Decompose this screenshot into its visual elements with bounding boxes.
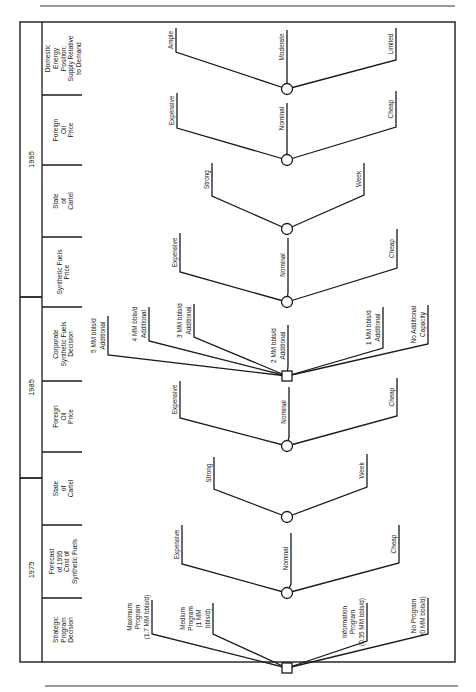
branch-line — [287, 238, 288, 302]
decision-tree-figure: 199519851975DomesticEnergyPosition:Suppl… — [0, 0, 476, 692]
stage-header-label: State — [52, 193, 59, 209]
diagram-svg: 199519851975DomesticEnergyPosition:Suppl… — [0, 0, 476, 692]
year-label: 1975 — [27, 562, 36, 579]
branch-line — [287, 91, 396, 160]
branch-line — [287, 454, 367, 517]
branch-label: Nominal — [279, 253, 286, 276]
branch-label: Additional — [185, 306, 192, 334]
branch-label: Expensive — [171, 384, 179, 414]
stage-header-label: to Demand — [75, 42, 82, 75]
decision-node-square — [282, 371, 292, 381]
branch-label: Week — [358, 462, 365, 479]
branch-label: Additional — [140, 310, 147, 338]
branch-label: Maximum — [126, 603, 133, 631]
branch-label: 5 MM bbls/d — [90, 318, 97, 353]
branch-line — [287, 378, 397, 446]
branch-label: No Program — [410, 599, 418, 633]
year-label: 1985 — [27, 379, 36, 396]
branch-label: Cheap — [390, 534, 398, 553]
branch-label: Nominal — [282, 547, 289, 570]
branch-label: Information — [341, 606, 348, 638]
branch-label: Additional — [374, 313, 381, 341]
branch-line — [287, 163, 364, 229]
stage-header-label: Cost of — [63, 551, 70, 572]
stage-header-label: Decision — [67, 617, 74, 643]
chance-node-circle — [282, 441, 293, 452]
branch-label: bbls/d) — [204, 609, 212, 628]
branch-label: Additional — [279, 331, 286, 359]
chance-node-circle — [282, 297, 293, 308]
stage-header-label: Price — [63, 264, 70, 279]
stage-header-label: Cartel — [67, 479, 74, 497]
branch-line — [149, 307, 287, 376]
branch-label: Capacity — [419, 311, 427, 337]
stage-header-label: State — [52, 480, 59, 496]
stage-header-label: Position: — [60, 46, 67, 71]
stage-header-label: Cartel — [67, 192, 74, 210]
branch-label: Cheap — [388, 239, 396, 258]
chance-node-circle — [282, 588, 293, 599]
chance-node-circle — [282, 155, 293, 166]
branch-label: Program — [134, 605, 142, 630]
stage-header-label: Price — [67, 122, 74, 137]
branch-label: Nominal — [280, 400, 287, 423]
decision-node-square — [282, 663, 292, 673]
chance-node-circle — [282, 84, 293, 95]
branch-label: Cheap — [387, 99, 395, 118]
stage-header-label: Decision — [67, 331, 74, 357]
stage-header-label: Oil — [60, 412, 67, 421]
branch-label: Cheap — [388, 387, 396, 406]
stage-header-label: Synthetic Fuels — [71, 538, 79, 584]
branch-label: Expensive — [171, 237, 179, 267]
stage-header-label: Oil — [60, 125, 67, 134]
branch-label: (0.35 MM bbls/d) — [358, 598, 366, 646]
branch-label: Ample — [167, 31, 175, 50]
stage-header-label: Price — [67, 409, 74, 424]
branch-label: (0 MM bbls/d) — [419, 596, 427, 635]
branch-line — [180, 381, 287, 446]
branch-line — [212, 163, 287, 229]
chance-node-circle — [282, 512, 293, 523]
branch-label: Program — [349, 610, 357, 635]
branch-line — [182, 525, 287, 593]
branch-label: (1.7 MM bbls/d) — [143, 595, 151, 639]
branch-line — [287, 305, 428, 376]
branch-label: Additional — [99, 321, 106, 349]
branch-line — [180, 233, 287, 302]
branch-line — [287, 28, 396, 89]
branch-label: Medium — [179, 607, 186, 630]
branch-line — [287, 387, 289, 446]
branch-label: Expensive — [173, 529, 181, 559]
branch-label: 4 MM bbls/d — [131, 306, 138, 341]
branch-line — [152, 600, 287, 668]
branch-label: 2 MM bbls/d — [270, 328, 277, 363]
stage-header-label: Domestic — [44, 44, 51, 72]
year-label: 1995 — [27, 151, 36, 168]
stage-header-label: Forecast — [48, 549, 55, 575]
chance-node-circle — [282, 224, 293, 235]
branch-label: Week — [355, 170, 362, 187]
branch-label: Nominal — [278, 107, 285, 130]
branch-label: No Additional — [410, 306, 417, 344]
branch-label: Limited — [387, 33, 394, 54]
branch-line — [214, 457, 287, 517]
branch-label: Strong — [205, 463, 213, 482]
branch-label: 1 MM bbls/d — [365, 310, 372, 345]
branch-label: 3 MM bbls/d — [176, 303, 183, 338]
branch-line — [177, 93, 287, 160]
stage-header-label: of 1995 — [56, 550, 63, 572]
branch-label: (1 MM — [195, 609, 203, 627]
branch-label: Strong — [203, 170, 211, 189]
stage-header-label: of — [60, 486, 67, 492]
branch-label: Moderate — [278, 33, 285, 60]
branch-label: Expensive — [168, 95, 176, 125]
branch-line — [287, 525, 399, 593]
stage-header-label: of — [60, 198, 67, 204]
branch-label: Program — [187, 606, 195, 631]
branch-line — [287, 325, 288, 376]
branch-line — [287, 229, 397, 302]
branch-line — [176, 28, 287, 89]
